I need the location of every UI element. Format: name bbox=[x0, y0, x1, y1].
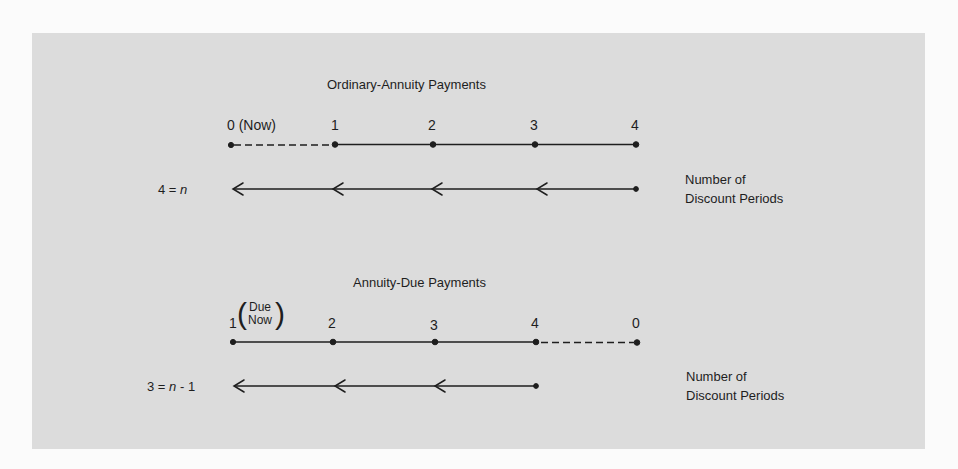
label-line-1: Number of bbox=[685, 170, 783, 189]
ordinary-annuity-title: Ordinary-Annuity Payments bbox=[327, 77, 486, 92]
due-note-line-2: Now bbox=[245, 314, 275, 327]
due-tick-label-3: 3 bbox=[430, 318, 438, 333]
equation-suffix: - 1 bbox=[180, 379, 195, 394]
due-now-close-paren: ) bbox=[275, 299, 285, 329]
ordinary-tick-label-1: 1 bbox=[331, 118, 339, 133]
equation-lhs: 4 bbox=[158, 182, 165, 197]
due-periods-equation: 3 = n - 1 bbox=[147, 379, 195, 394]
ordinary-annuity-timeline bbox=[228, 142, 638, 195]
ordinary-discount-arrow-start-dot bbox=[634, 187, 639, 192]
annuity-due-title: Annuity-Due Payments bbox=[353, 275, 486, 290]
due-dot-1 bbox=[230, 339, 235, 344]
equation-equals: = bbox=[169, 182, 177, 197]
timeline-diagram bbox=[0, 0, 958, 469]
label-line-1: Number of bbox=[686, 367, 784, 386]
equation-variable: n bbox=[169, 379, 176, 394]
due-dot-4 bbox=[533, 339, 539, 345]
ordinary-dot-2 bbox=[430, 142, 436, 148]
due-tick-label-4: 4 bbox=[531, 316, 539, 331]
ordinary-dot-3 bbox=[532, 142, 538, 148]
due-tick-label-2: 2 bbox=[328, 316, 336, 331]
ordinary-tick-label-2: 2 bbox=[428, 118, 436, 133]
due-dot-2 bbox=[330, 339, 336, 345]
due-dot-0 bbox=[634, 340, 640, 346]
due-tick-label-1: 1 bbox=[229, 316, 237, 331]
equation-lhs: 3 bbox=[147, 379, 154, 394]
equation-variable: n bbox=[180, 182, 187, 197]
ordinary-periods-equation: 4 = n bbox=[158, 182, 187, 197]
due-discount-periods-label: Number of Discount Periods bbox=[686, 367, 784, 405]
annuity-due-timeline bbox=[230, 339, 639, 392]
ordinary-discount-periods-label: Number of Discount Periods bbox=[685, 170, 783, 208]
due-discount-arrow-start-dot bbox=[534, 384, 539, 389]
ordinary-tick-label-0: 0 (Now) bbox=[227, 118, 276, 133]
due-dot-3 bbox=[432, 339, 438, 345]
equation-equals: = bbox=[158, 379, 166, 394]
due-now-note: Due Now bbox=[245, 301, 275, 327]
ordinary-dot-1 bbox=[332, 142, 338, 148]
label-line-2: Discount Periods bbox=[685, 189, 783, 208]
ordinary-dot-0 bbox=[228, 142, 233, 147]
ordinary-dot-4 bbox=[633, 142, 639, 148]
ordinary-tick-label-4: 4 bbox=[631, 118, 639, 133]
due-tick-label-0: 0 bbox=[632, 316, 640, 331]
label-line-2: Discount Periods bbox=[686, 386, 784, 405]
ordinary-tick-label-3: 3 bbox=[530, 118, 538, 133]
